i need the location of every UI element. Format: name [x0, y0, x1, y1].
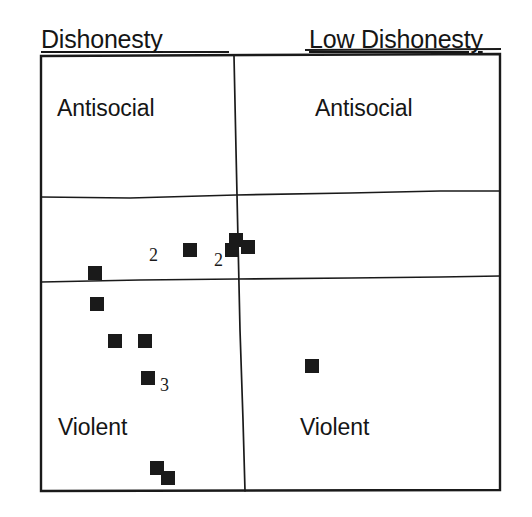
quadrant-label-top-right: Antisocial [315, 95, 412, 122]
data-point-layer [88, 233, 319, 485]
data-point-marker [225, 243, 239, 257]
horizontal-divider-upper [41, 191, 500, 198]
count-annotation: 3 [160, 375, 169, 396]
header-label-low-dishonesty: Low Dishonesty [309, 25, 483, 54]
data-point-marker [241, 240, 255, 254]
quadrant-label-bottom-left: Violent [58, 414, 127, 441]
data-point-marker [141, 371, 155, 385]
data-point-marker [88, 266, 102, 280]
figure-canvas: Dishonesty Low Dishonesty Antisocial Ant… [0, 0, 532, 517]
data-point-marker [138, 334, 152, 348]
vertical-divider [234, 56, 245, 491]
header-label-dishonesty: Dishonesty [41, 25, 163, 54]
count-annotation: 2 [149, 245, 158, 266]
data-point-marker [183, 243, 197, 257]
quadrant-label-bottom-right: Violent [300, 414, 369, 441]
quadrant-label-top-left: Antisocial [57, 95, 154, 122]
data-point-marker [305, 359, 319, 373]
data-point-marker [90, 297, 104, 311]
horizontal-divider-lower [41, 276, 500, 282]
count-annotation: 2 [214, 250, 223, 271]
data-point-marker [108, 334, 122, 348]
data-point-marker [161, 471, 175, 485]
